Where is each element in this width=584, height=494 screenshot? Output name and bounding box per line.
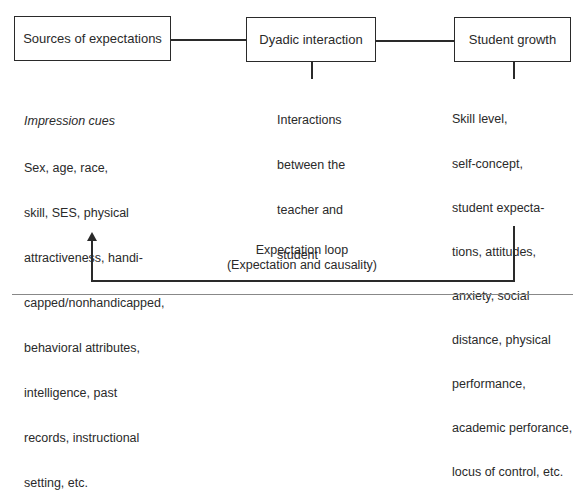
sources-detail: Impression cues Sex, age, race, skill, S… — [24, 84, 164, 494]
dyadic-line: Interactions — [277, 113, 345, 128]
sources-of-expectations-box: Sources of expectations — [14, 16, 171, 61]
growth-line: academic perforance, — [452, 421, 572, 436]
sources-line: attractiveness, handi- — [24, 251, 164, 266]
student-growth-box: Student growth — [454, 17, 571, 62]
growth-line: performance, — [452, 377, 572, 392]
sources-line: behavioral attributes, — [24, 341, 164, 356]
arrow-up-icon — [87, 232, 97, 241]
connector-sources-dyadic — [171, 39, 246, 41]
sources-box-label: Sources of expectations — [23, 31, 162, 46]
connector-dyadic-growth — [376, 40, 454, 42]
loop-title: Expectation loop — [182, 243, 422, 258]
dyadic-line: teacher and — [277, 203, 345, 218]
dyadic-interaction-box: Dyadic interaction — [246, 17, 376, 62]
sources-line: setting, etc. — [24, 476, 164, 491]
growth-box-label: Student growth — [469, 32, 556, 47]
sources-line: Sex, age, race, — [24, 161, 164, 176]
growth-tick — [513, 62, 515, 79]
sources-line: records, instructional — [24, 431, 164, 446]
sources-line: skill, SES, physical — [24, 206, 164, 221]
sources-line: capped/nonhandicapped, — [24, 296, 164, 311]
loop-subtitle: (Expectation and causality) — [182, 258, 422, 273]
growth-line: locus of control, etc. — [452, 465, 572, 480]
dyadic-line: between the — [277, 158, 345, 173]
loop-bottom-horizontal — [91, 280, 515, 282]
loop-right-vertical — [513, 226, 515, 282]
dyadic-box-label: Dyadic interaction — [259, 32, 362, 47]
dyadic-tick — [311, 62, 313, 79]
growth-line: self-concept, — [452, 157, 572, 172]
loop-left-vertical — [91, 238, 93, 282]
bottom-separator — [12, 294, 573, 295]
impression-cues-heading: Impression cues — [24, 114, 164, 129]
expectation-loop-label: Expectation loop (Expectation and causal… — [182, 243, 422, 273]
growth-line: distance, physical — [452, 333, 572, 348]
growth-detail: Skill level, self-concept, student expec… — [452, 83, 572, 494]
growth-line: student expecta- — [452, 201, 572, 216]
sources-line: intelligence, past — [24, 386, 164, 401]
growth-line: Skill level, — [452, 112, 572, 127]
growth-line: anxiety, social — [452, 289, 572, 304]
